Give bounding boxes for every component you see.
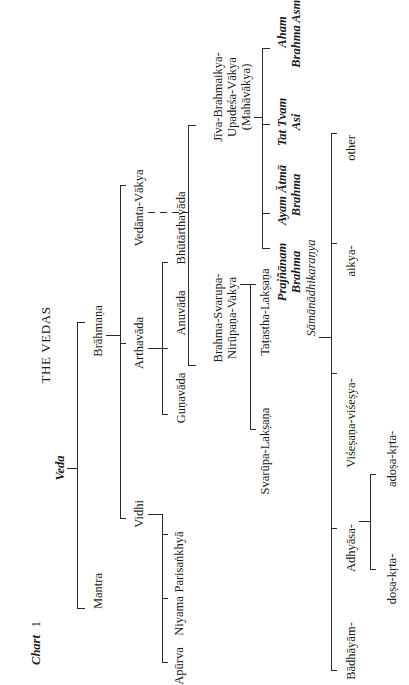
connector: [240, 284, 250, 285]
connector: [67, 468, 77, 469]
bracket-adhyasa: [370, 474, 371, 569]
bracket-samanadhikaranya: [331, 133, 332, 670]
connector: [331, 373, 337, 374]
connector: [77, 608, 85, 609]
connector: [359, 521, 370, 522]
connector: [254, 117, 262, 118]
bracket-brahmana: [120, 185, 121, 518]
dashed-connector: [148, 212, 188, 213]
bracket-arthavada: [162, 262, 163, 414]
connector: [250, 284, 256, 285]
connector: [331, 528, 337, 529]
connector: [148, 514, 162, 515]
connector: [250, 429, 256, 430]
connector: [162, 262, 168, 263]
connector: [120, 518, 126, 519]
bracket-vidhi: [162, 514, 163, 662]
chart-page: Chart 1 THE VEDAS Veda Brāhmaṇa Mantra V…: [0, 0, 409, 685]
bracket-veda: [77, 322, 78, 608]
connector: [120, 343, 126, 344]
connector: [162, 534, 168, 535]
connector: [188, 365, 196, 366]
connector: [262, 124, 270, 125]
connector: [370, 474, 376, 475]
connector: [106, 335, 120, 336]
connector: [162, 598, 168, 599]
connector: [262, 248, 270, 249]
connector: [331, 133, 337, 134]
connector: [262, 48, 270, 49]
connector: [162, 414, 168, 415]
connector: [148, 348, 162, 349]
connector: [120, 185, 126, 186]
connector: [331, 243, 337, 244]
connector: [331, 670, 337, 671]
connector: [162, 662, 168, 663]
connector: [319, 337, 331, 338]
bracket-mahavakya: [262, 48, 263, 248]
bracket-brahma-svarupa: [250, 284, 251, 429]
bracket-vedanta: [188, 125, 189, 365]
connector: [370, 569, 376, 570]
connector: [262, 213, 270, 214]
connector: [162, 348, 168, 349]
connector: [188, 125, 196, 126]
connector: [77, 322, 85, 323]
